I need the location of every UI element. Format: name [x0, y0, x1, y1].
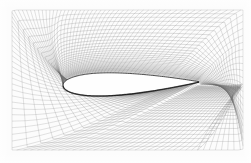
airfoil-mesh-figure: Structured C-grid mesh around an airfoil: [0, 0, 251, 163]
mesh-canvas: [0, 0, 251, 163]
